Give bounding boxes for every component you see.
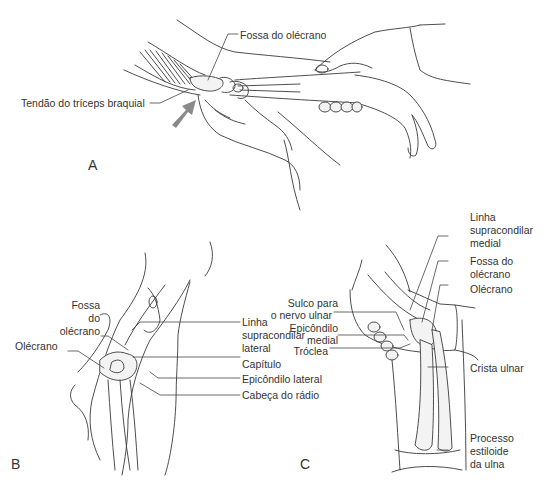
- label-processo-estiloide-1: Processo: [470, 432, 514, 444]
- label-linha-supracondilar-lateral-3: lateral: [242, 342, 271, 354]
- label-olecrano-b: Olécrano: [15, 340, 58, 352]
- label-linha-supracondilar-medial-1: Linha: [470, 211, 496, 223]
- label-linha-supracondilar-lateral-1: Linha: [242, 316, 268, 328]
- label-sulco-nervo-ulnar-1: Sulco para: [276, 297, 338, 309]
- label-epicondilo-lateral: Epicôndilo lateral: [242, 373, 322, 385]
- label-fossa-olecrano-b-1: Fossa: [30, 299, 100, 311]
- label-fossa-olecrano-b-2: do: [30, 312, 100, 324]
- label-fossa-olecrano-a: Fossa do olécrano: [240, 29, 326, 41]
- label-epicondilo-medial-1: Epicôndilo: [276, 322, 338, 334]
- label-capitulo: Capítulo: [242, 358, 281, 370]
- panel-b-drawing: [68, 242, 240, 475]
- panel-c-drawing: [330, 236, 478, 472]
- label-fossa-olecrano-c-1: Fossa do: [470, 255, 513, 267]
- label-fossa-olecrano-b-3: olécrano: [30, 325, 100, 337]
- line-drawings: [0, 0, 548, 485]
- panel-letter-b: B: [11, 456, 20, 472]
- label-linha-supracondilar-medial-3: medial: [470, 237, 501, 249]
- label-crista-ulnar: Crista ulnar: [470, 362, 524, 374]
- label-cabeca-radio: Cabeça do rádio: [242, 389, 319, 401]
- label-fossa-olecrano-c-2: olécrano: [470, 268, 510, 280]
- label-tendao-triceps: Tendão do tríceps braquial: [21, 97, 145, 109]
- panel-letter-c: C: [300, 456, 310, 472]
- label-olecrano-c: Olécrano: [470, 283, 513, 295]
- label-linha-supracondilar-medial-2: supracondilar: [470, 224, 533, 236]
- label-processo-estiloide-2: estiloide: [470, 445, 509, 457]
- label-sulco-nervo-ulnar-2: o nervo ulnar: [270, 309, 332, 321]
- panel-a-drawing: [124, 20, 470, 210]
- anatomy-figure: Fossa do olécrano Tendão do tríceps braq…: [0, 0, 548, 485]
- panel-letter-a: A: [88, 157, 97, 173]
- label-troclea: Tróclea: [270, 345, 328, 357]
- label-processo-estiloide-3: da ulna: [470, 458, 504, 470]
